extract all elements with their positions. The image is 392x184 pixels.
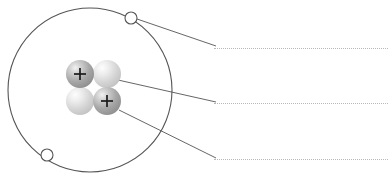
proton-particle: [66, 60, 94, 88]
electron-particle: [41, 149, 53, 161]
proton-particle: [93, 87, 121, 115]
answer-line-neutron[interactable]: [214, 103, 388, 104]
nucleus: [66, 60, 121, 115]
neutron-particle: [93, 60, 121, 88]
answer-line-proton[interactable]: [214, 159, 388, 160]
neutron-particle: [66, 87, 94, 115]
electron-particle: [125, 12, 137, 24]
atom-diagram-worksheet: [0, 0, 392, 184]
leader-line-neutron: [118, 80, 216, 102]
atom-diagram-graphic: [0, 0, 392, 184]
answer-line-electron[interactable]: [214, 48, 388, 49]
electron-orbit: [8, 8, 172, 172]
